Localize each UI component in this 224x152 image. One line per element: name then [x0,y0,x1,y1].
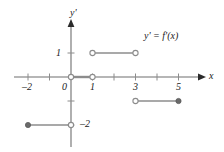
origin-label: 0 [62,82,67,92]
y-axis-arrowhead [68,19,75,27]
curve-equation-label: y' = f'(x) [144,31,178,41]
segment-4-open-endpoint [133,98,138,103]
y-axis-label: y' [70,8,77,18]
segment-3-open-endpoint-right [133,50,138,55]
derivative-step-graph-figure: y' x y' = f'(x) –2 0 1 3 5 1 –2 [0,0,224,152]
x-tick-label-3: 3 [133,82,138,92]
x-tick-label-1: 1 [90,82,95,92]
y-tick-label-neg2: –2 [80,119,90,129]
x-axis-arrowhead [198,74,206,81]
x-axis-label: x [209,71,213,81]
x-tick-label-5: 5 [176,82,181,92]
segment-2-open-endpoint-right [90,74,95,79]
segment-1-closed-endpoint [25,122,30,127]
plot-canvas [0,0,224,152]
x-tick-label-neg2: –2 [22,82,32,92]
segment-1-open-endpoint [68,122,73,127]
segment-4-closed-endpoint [176,98,181,103]
segment-2-open-endpoint-left [68,74,73,79]
y-tick-label-1: 1 [56,48,61,58]
segment-3-open-endpoint-left [90,50,95,55]
